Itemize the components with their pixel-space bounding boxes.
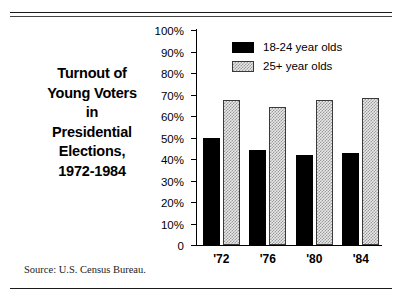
chart-figure: Turnout of Young Voters in Presidential … xyxy=(0,0,402,296)
y-axis-tick-label: 60% xyxy=(161,111,184,123)
x-axis-tick-label: '72 xyxy=(213,252,229,266)
bar-series-1 xyxy=(342,153,359,245)
bar-series-2 xyxy=(269,107,286,245)
x-axis-line xyxy=(196,245,382,246)
bar-series-2 xyxy=(362,98,379,245)
y-axis-tick: 20% xyxy=(191,202,196,203)
y-axis-tick-label: 40% xyxy=(161,154,184,166)
chart-title: Turnout of Young Voters in Presidential … xyxy=(8,64,176,181)
x-axis-tick-label: '76 xyxy=(260,252,276,266)
y-axis-tick-label: 10% xyxy=(161,219,184,231)
title-line: in xyxy=(8,103,176,123)
y-axis-tick: 10% xyxy=(191,224,196,225)
source-caption: Source: U.S. Census Bureau. xyxy=(24,264,146,275)
bar-series-1 xyxy=(203,138,220,246)
y-axis-tick: 40% xyxy=(191,159,196,160)
title-line: 1972-1984 xyxy=(8,162,176,182)
y-axis-tick-label: 20% xyxy=(161,197,184,209)
y-axis-tick-label: 70% xyxy=(161,90,184,102)
y-axis-tick-label: 50% xyxy=(161,133,184,145)
y-axis-tick: 60% xyxy=(191,116,196,117)
y-axis-tick-label: 80% xyxy=(161,68,184,80)
y-axis-tick: 90% xyxy=(191,52,196,53)
title-line: Elections, xyxy=(8,142,176,162)
x-axis-tick-label: '80 xyxy=(306,252,322,266)
plot-area: 010%20%30%40%50%60%70%80%90%100% '72'76'… xyxy=(196,30,382,245)
y-axis-tick: 50% xyxy=(191,138,196,139)
y-axis-tick-label: 30% xyxy=(161,176,184,188)
title-line: Turnout of xyxy=(8,64,176,84)
bottom-rule xyxy=(10,288,392,289)
title-line: Young Voters xyxy=(8,84,176,104)
bar-series-2 xyxy=(223,100,240,245)
bar-series-1 xyxy=(296,155,313,245)
top-rule-thick xyxy=(10,12,392,13)
y-axis-line xyxy=(196,29,197,246)
title-line: Presidential xyxy=(8,123,176,143)
y-axis-tick: 30% xyxy=(191,181,196,182)
x-axis-tick-label: '84 xyxy=(353,252,369,266)
top-rule-thin xyxy=(10,16,392,17)
bar-series-1 xyxy=(249,150,266,245)
y-axis-tick-label: 0 xyxy=(178,240,184,252)
y-axis-tick: 100% xyxy=(191,30,196,31)
y-axis-tick-label: 90% xyxy=(161,47,184,59)
y-axis-tick-label: 100% xyxy=(155,25,184,37)
y-axis-tick: 0 xyxy=(191,245,196,246)
y-axis-tick: 70% xyxy=(191,95,196,96)
y-axis-tick: 80% xyxy=(191,73,196,74)
bar-series-2 xyxy=(316,100,333,245)
